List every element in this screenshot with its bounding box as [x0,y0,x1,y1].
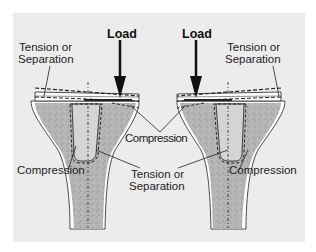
left-tibia [31,82,139,229]
right-compression-label: Compression [229,164,297,176]
left-load-label: Load [107,27,137,41]
center-tension-label-2: Separation [129,180,185,192]
right-tension-label-2: Separation [225,53,281,65]
right-tension-label-1: Tension or [227,41,280,53]
right-tension-leader [273,66,279,96]
tibial-tray-diagram [0,0,316,252]
left-tension-label-2: Separation [18,53,74,65]
center-compression-label: Compression [125,132,187,144]
right-load-arrow [190,40,202,98]
left-load-arrow [114,40,126,98]
left-tension-label-1: Tension or [19,41,72,53]
center-tension-label-1: Tension or [131,168,184,180]
right-tibia [177,82,285,229]
left-tension-leader [44,66,50,96]
left-compression-label: Compression [17,164,85,176]
right-load-label: Load [182,27,212,41]
